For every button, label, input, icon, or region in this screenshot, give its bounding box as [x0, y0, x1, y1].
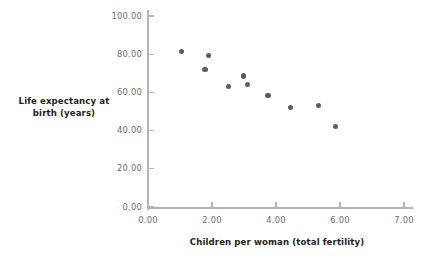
data-point	[241, 73, 246, 78]
y-tick-label: 80.00	[98, 49, 142, 59]
plot-area: 0.0020.0040.0060.0080.00100.00 0.002.004…	[0, 0, 439, 262]
x-axis-line	[147, 207, 413, 209]
data-point	[265, 93, 270, 98]
data-point	[179, 49, 184, 54]
data-point	[245, 82, 250, 87]
x-tick-label: 2.00	[190, 215, 234, 225]
y-tick-label: 60.00	[98, 87, 142, 97]
y-tick-mark	[149, 54, 154, 55]
x-tick-mark	[339, 202, 340, 207]
y-tick-mark	[149, 168, 154, 169]
data-point	[333, 124, 338, 129]
x-tick-mark	[275, 202, 276, 207]
x-tick-label: 4.00	[254, 215, 298, 225]
x-tick-label: 0.00	[126, 215, 170, 225]
data-point	[206, 53, 211, 58]
data-point	[202, 67, 207, 72]
y-tick-label: 40.00	[98, 125, 142, 135]
y-tick-label: 0.00	[98, 202, 142, 212]
y-tick-label: 20.00	[98, 163, 142, 173]
x-tick-label: 7.00	[382, 215, 426, 225]
data-point	[316, 103, 321, 108]
y-tick-mark	[149, 15, 154, 16]
data-point	[288, 105, 293, 110]
x-tick-mark	[403, 202, 404, 207]
scatter-plot-figure: Life expectancy at birth (years) 0.0020.…	[0, 0, 439, 262]
x-tick-label: 6.00	[318, 215, 362, 225]
y-tick-mark	[149, 130, 154, 131]
y-axis-line	[147, 10, 149, 210]
data-point	[226, 84, 231, 89]
y-tick-mark	[149, 206, 154, 207]
y-tick-mark	[149, 92, 154, 93]
x-axis-title: Children per woman (total fertility)	[148, 237, 406, 247]
x-tick-mark	[211, 202, 212, 207]
y-tick-label: 100.00	[98, 11, 142, 21]
